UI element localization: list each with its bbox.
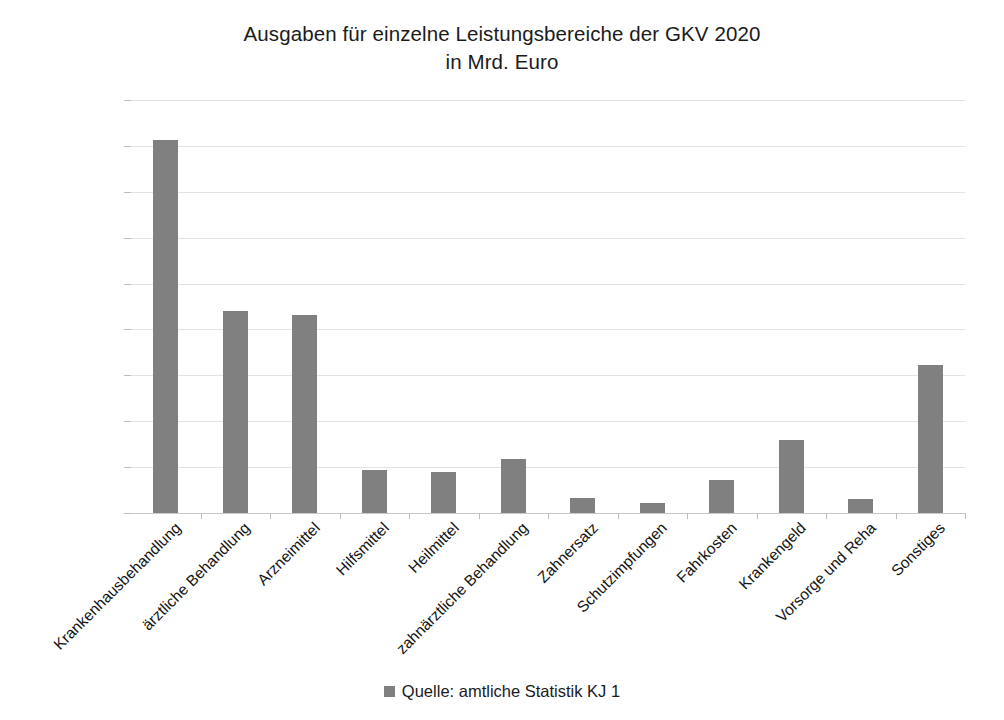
bar bbox=[153, 140, 178, 513]
gridline bbox=[131, 238, 965, 239]
x-axis-tick-label-text: Fahrkosten bbox=[673, 519, 740, 586]
x-axis-tick-label-text: Krankenhausbehandlung bbox=[50, 519, 184, 653]
x-axis-tick-label-text: Hilfsmittel bbox=[333, 519, 393, 579]
x-axis-tick-label-text: Heilmittel bbox=[405, 519, 462, 576]
x-axis-tick-label-text: Arzneimittel bbox=[253, 519, 322, 588]
y-axis-tick-mark bbox=[124, 467, 131, 468]
gridline bbox=[131, 375, 965, 376]
x-axis-labels: Krankenhausbehandlungärztliche Behandlun… bbox=[131, 513, 965, 663]
legend-label: Quelle: amtliche Statistik KJ 1 bbox=[402, 682, 620, 700]
gridline bbox=[131, 329, 965, 330]
y-axis-tick-mark bbox=[124, 100, 131, 101]
chart-title-line-2: in Mrd. Euro bbox=[0, 48, 1004, 76]
legend-swatch-icon bbox=[384, 686, 395, 697]
chart-legend: Quelle: amtliche Statistik KJ 1 bbox=[0, 682, 1004, 700]
y-axis-tick-mark bbox=[124, 375, 131, 376]
gridline bbox=[131, 421, 965, 422]
gridline bbox=[131, 467, 965, 468]
gridline bbox=[131, 100, 965, 101]
y-axis-tick-mark bbox=[124, 192, 131, 193]
y-axis-tick-mark bbox=[124, 238, 131, 239]
y-axis-tick-mark bbox=[124, 329, 131, 330]
chart-title-line-1: Ausgaben für einzelne Leistungsbereiche … bbox=[0, 20, 1004, 48]
y-axis-tick-mark bbox=[124, 146, 131, 147]
gridline bbox=[131, 192, 965, 193]
y-axis-tick-mark bbox=[124, 513, 131, 514]
bar bbox=[918, 365, 943, 513]
gridline bbox=[131, 284, 965, 285]
x-axis-tick-label-text: Sonstiges bbox=[888, 519, 948, 579]
bar bbox=[570, 498, 595, 513]
x-axis-tick-label-text: zahnärztliche Behandlung bbox=[393, 519, 531, 657]
y-axis-tick-mark bbox=[124, 421, 131, 422]
chart-title: Ausgaben für einzelne Leistungsbereiche … bbox=[0, 20, 1004, 76]
bar bbox=[848, 499, 873, 513]
x-axis-tick-label-text: Krankengeld bbox=[736, 519, 810, 593]
bar bbox=[640, 503, 665, 513]
y-axis-tick-mark bbox=[124, 284, 131, 285]
x-axis-tick-label-text: Zahnersatz bbox=[534, 519, 601, 586]
gridline bbox=[131, 146, 965, 147]
bar-chart-figure: Ausgaben für einzelne Leistungsbereiche … bbox=[0, 0, 1004, 720]
